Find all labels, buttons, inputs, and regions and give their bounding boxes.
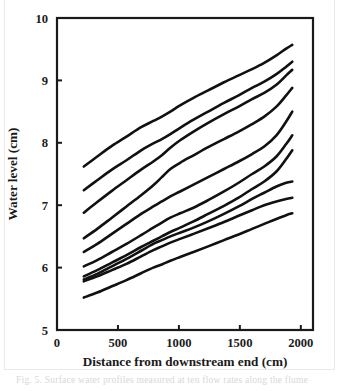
y-tick-label: 6 xyxy=(42,261,48,275)
y-tick-label: 10 xyxy=(35,12,48,26)
x-tick-label: 1000 xyxy=(166,336,191,350)
x-axis-tick-labels: 0500100015002000 xyxy=(54,336,314,350)
y-tick-label: 9 xyxy=(42,74,48,88)
figure-caption: Fig. 5. Surface water profiles measured … xyxy=(16,374,328,385)
figure-root: 5678910 0500100015002000 Distance from d… xyxy=(0,0,340,391)
water-level-profile-chart: 5678910 0500100015002000 Distance from d… xyxy=(0,0,340,372)
x-tick-label: 2000 xyxy=(288,336,313,350)
y-axis-title: Water level (cm) xyxy=(5,128,20,221)
x-tick-label: 1500 xyxy=(227,336,252,350)
y-tick-label: 5 xyxy=(42,324,48,338)
x-axis-title: Distance from downstream end (cm) xyxy=(83,354,288,369)
x-tick-label: 500 xyxy=(109,336,128,350)
y-axis-tick-labels: 5678910 xyxy=(35,12,48,338)
y-tick-label: 8 xyxy=(42,136,48,150)
y-tick-label: 7 xyxy=(42,199,48,213)
x-tick-label: 0 xyxy=(54,336,60,350)
